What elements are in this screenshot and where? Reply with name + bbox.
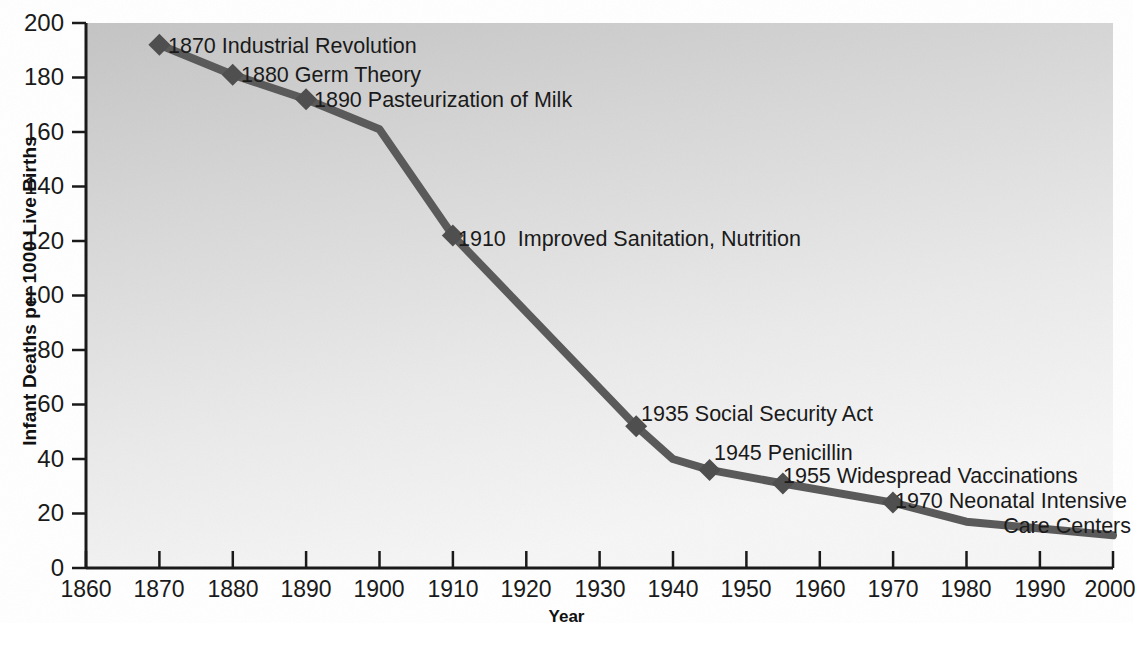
annotation-1890: 1890 Pasteurization of Milk [314,88,572,113]
annotation-1945: 1945 Penicillin [714,441,853,466]
annotation-1970-line2: Care Centers [895,514,1131,539]
y-axis-ticks [72,23,86,568]
annotation-1880: 1880 Germ Theory [241,63,421,88]
annotation-1910: 1910 Improved Sanitation, Nutrition [458,227,801,252]
y-tick-label-20: 20 [0,501,64,525]
annotation-1970-line1: 1970 Neonatal Intensive [895,489,1127,514]
y-tick-label-200: 200 [0,11,64,35]
annotation-1870: 1870 Industrial Revolution [168,34,417,59]
x-tick-label-2000: 2000 [1065,577,1140,601]
annotation-1955: 1955 Widespread Vaccinations [783,464,1078,489]
y-axis-title: Infant Deaths per 1000 Live Births [19,81,41,501]
x-axis-title: Year [0,607,1133,627]
annotation-1935: 1935 Social Security Act [641,402,873,427]
